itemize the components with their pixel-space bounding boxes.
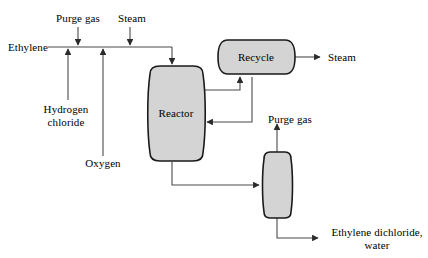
label-purge-gas-top: Purge gas (56, 12, 100, 24)
recycle-return-line (207, 77, 252, 122)
separator-vessel (263, 152, 293, 218)
label-product-line1: Ethylene dichloride, (331, 226, 422, 239)
label-hydrogen-chloride: Hydrogen chloride (44, 103, 89, 128)
reactor-to-recycle-line (204, 77, 240, 90)
label-steam-top: Steam (118, 12, 146, 24)
label-product-outlet: Ethylene dichloride, water (331, 226, 422, 251)
label-hydrogen-chloride-line2: chloride (44, 116, 89, 129)
label-hydrogen-chloride-line1: Hydrogen (44, 103, 89, 116)
separator-product-line (277, 218, 318, 238)
label-reactor: Reactor (159, 107, 194, 119)
process-flow-diagram: Ethylene Purge gas Steam Hydrogen chlori… (0, 0, 428, 258)
label-purge-gas-mid: Purge gas (268, 113, 312, 125)
label-product-line2: water (331, 239, 422, 252)
label-steam-outlet: Steam (328, 51, 356, 63)
label-oxygen: Oxygen (85, 157, 120, 169)
reactor-to-separator-line (172, 162, 259, 185)
label-recycle: Recycle (238, 51, 274, 63)
flow-svg (0, 0, 428, 258)
label-ethylene: Ethylene (8, 41, 48, 53)
